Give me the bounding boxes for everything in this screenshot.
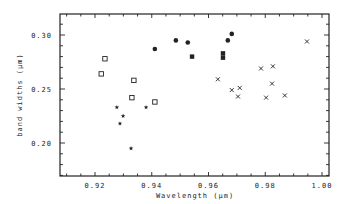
- open-square-marker: [99, 72, 103, 76]
- y-tick-labels: 0.200.250.30: [31, 32, 52, 148]
- star-marker: [144, 105, 149, 109]
- x-tick-label: 0.98: [255, 182, 276, 190]
- x-tick-label: 1.00: [312, 182, 333, 190]
- y-tick-label: 0.20: [31, 140, 52, 148]
- filled-circle-marker: [185, 40, 190, 45]
- open-square-marker: [132, 78, 136, 82]
- x-marker: [305, 39, 309, 43]
- x-tick-label: 0.96: [198, 182, 219, 190]
- open-square-marker: [103, 57, 107, 61]
- series-filled-circle: [153, 32, 234, 52]
- axis-ticks: [60, 14, 329, 176]
- filled-circle-marker: [225, 38, 230, 43]
- series-star: [115, 105, 149, 150]
- x-tick-label: 0.92: [85, 182, 106, 190]
- star-marker: [129, 146, 134, 150]
- x-marker: [264, 96, 268, 100]
- x-marker: [271, 64, 275, 68]
- filled-square-marker: [221, 51, 225, 55]
- x-marker: [238, 86, 242, 90]
- plot-frame: [60, 14, 329, 176]
- filled-circle-marker: [229, 32, 234, 37]
- series-open-square: [99, 57, 157, 105]
- y-axis-label: band widths (µm): [16, 53, 24, 136]
- open-square-marker: [153, 100, 157, 104]
- series-x-mark: [216, 39, 309, 99]
- x-marker: [230, 88, 234, 92]
- filled-square-marker: [221, 55, 225, 59]
- data-points: [99, 32, 309, 151]
- x-tick-labels: 0.920.940.960.981.00: [85, 182, 333, 190]
- star-marker: [118, 121, 123, 125]
- star-marker: [121, 114, 126, 118]
- filled-square-marker: [190, 54, 194, 58]
- y-tick-label: 0.25: [31, 86, 52, 94]
- x-marker: [236, 95, 240, 99]
- x-marker: [216, 77, 220, 81]
- series-filled-square: [190, 51, 225, 60]
- x-tick-label: 0.94: [141, 182, 162, 190]
- scatter-chart: 0.920.940.960.981.00 0.200.250.30 Wavele…: [0, 0, 349, 204]
- filled-circle-marker: [174, 38, 179, 43]
- filled-circle-marker: [153, 47, 158, 52]
- star-marker: [115, 105, 120, 109]
- plot-axes: [60, 14, 329, 176]
- y-tick-label: 0.30: [31, 32, 52, 40]
- x-marker: [270, 82, 274, 86]
- x-marker: [259, 66, 263, 70]
- x-axis-label: Wavelength (µm): [156, 192, 234, 200]
- x-marker: [283, 93, 287, 97]
- open-square-marker: [130, 95, 134, 99]
